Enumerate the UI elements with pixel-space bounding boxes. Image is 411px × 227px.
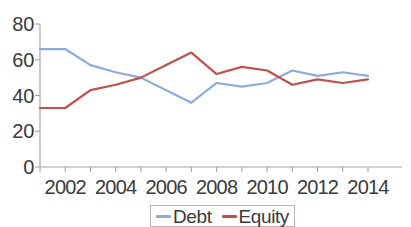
x-axis-tick-label: 2010 bbox=[241, 177, 293, 197]
legend-item-equity[interactable]: Equity bbox=[222, 207, 289, 226]
y-axis-tick-label: 80 bbox=[0, 14, 34, 34]
line-chart: 020406080 2002200420062008201020122014 D… bbox=[0, 0, 411, 227]
legend-line-swatch-icon bbox=[222, 215, 237, 218]
axes bbox=[35, 24, 402, 172]
x-axis-tick-label: 2014 bbox=[342, 177, 394, 197]
legend-label: Debt bbox=[173, 207, 212, 226]
y-axis-tick-label: 0 bbox=[0, 157, 34, 177]
x-axis-tick-label: 2002 bbox=[39, 177, 91, 197]
plot-area bbox=[0, 0, 411, 200]
y-axis-tick-label: 40 bbox=[0, 86, 34, 106]
x-axis-tick-label: 2012 bbox=[292, 177, 344, 197]
x-axis-tick-label: 2006 bbox=[140, 177, 192, 197]
x-axis-tick-label: 2008 bbox=[191, 177, 243, 197]
x-axis-tick-label: 2004 bbox=[90, 177, 142, 197]
data-line-debt bbox=[40, 49, 368, 103]
data-line-equity bbox=[40, 53, 368, 108]
data-series-group bbox=[40, 49, 368, 108]
legend-line-swatch-icon bbox=[156, 215, 171, 218]
legend-item-debt[interactable]: Debt bbox=[156, 207, 212, 226]
chart-legend: DebtEquity bbox=[150, 205, 295, 227]
legend-label: Equity bbox=[239, 207, 289, 226]
y-axis-tick-label: 60 bbox=[0, 50, 34, 70]
y-axis-tick-label: 20 bbox=[0, 121, 34, 141]
